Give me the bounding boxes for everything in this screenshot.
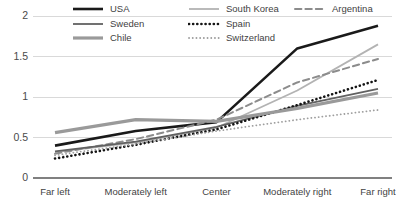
legend-item-usa[interactable]: USA [72,2,130,15]
legend-item-spain[interactable]: Spain [188,17,250,30]
series-line-switzerland [55,110,378,155]
legend-swatch-icon [72,18,104,30]
y-axis-tick-label: 2 [2,10,28,21]
legend-label: Switzerland [226,32,275,44]
series-lines [55,26,378,159]
legend-item-sweden[interactable]: Sweden [72,17,144,30]
legend-swatch-icon [72,32,104,44]
y-axis-tick-label: 1 [2,91,28,102]
legend-swatch-icon [188,32,220,44]
line-chart: 00.511.52 Far leftModerately leftCenterM… [0,0,396,210]
legend-label: Sweden [110,18,144,30]
chart-legend: USASouth KoreaArgentinaSwedenSpainChileS… [72,1,394,45]
legend-item-chile[interactable]: Chile [72,31,132,44]
legend-label: USA [110,3,130,15]
legend-swatch-icon [188,18,220,30]
x-axis-tick-label: Far left [40,186,70,197]
legend-swatch-icon [294,3,326,15]
legend-label: Spain [226,18,250,30]
legend-item-argentina[interactable]: Argentina [294,2,373,15]
legend-swatch-icon [72,3,104,15]
legend-swatch-icon [188,3,220,15]
y-axis-tick-label: 0.5 [2,132,28,143]
legend-item-south-korea[interactable]: South Korea [188,2,279,15]
legend-item-switzerland[interactable]: Switzerland [188,31,275,44]
x-axis-tick-label: Far right [360,186,395,197]
legend-label: Argentina [332,3,373,15]
y-axis-tick-label: 0 [2,172,28,183]
legend-label: South Korea [226,3,279,15]
legend-label: Chile [110,32,132,44]
x-axis-tick-label: Moderately left [105,186,167,197]
x-axis-tick-label: Center [202,186,231,197]
series-line-argentina [55,59,378,154]
y-axis-tick-label: 1.5 [2,51,28,62]
x-axis-tick-label: Moderately right [263,186,331,197]
